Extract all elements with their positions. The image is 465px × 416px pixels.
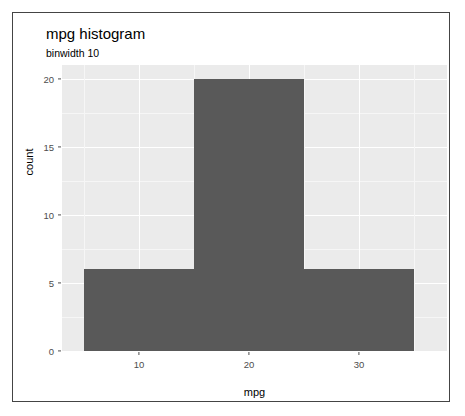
y-tick-label: 20: [43, 73, 54, 84]
x-tick-mark: [248, 352, 249, 355]
y-tick-mark: [58, 214, 61, 215]
y-tick-mark: [58, 146, 61, 147]
x-tick-mark: [358, 352, 359, 355]
histogram-bar: [84, 269, 194, 351]
plot-subtitle: binwidth 10: [46, 47, 99, 59]
x-tick-label: 20: [244, 359, 255, 370]
y-tick-label: 5: [49, 277, 54, 288]
y-tick-label: 15: [43, 141, 54, 152]
gridline-vertical-minor: [414, 65, 415, 351]
histogram-bar: [304, 269, 414, 351]
y-tick-label: 0: [49, 346, 54, 357]
y-axis-title: count: [23, 102, 35, 222]
plot-frame: mpg histogram binwidth 10 05101520 10203…: [12, 12, 450, 402]
y-tick-mark: [58, 350, 61, 351]
histogram-bar: [194, 79, 304, 351]
y-tick-mark: [58, 282, 61, 283]
x-tick-mark: [138, 352, 139, 355]
y-tick-label: 10: [43, 209, 54, 220]
x-tick-label: 30: [354, 359, 365, 370]
plot-panel: [62, 65, 447, 351]
x-tick-label: 10: [134, 359, 145, 370]
y-tick-mark: [58, 78, 61, 79]
x-axis-title: mpg: [62, 386, 447, 398]
plot-title: mpg histogram: [46, 25, 145, 42]
